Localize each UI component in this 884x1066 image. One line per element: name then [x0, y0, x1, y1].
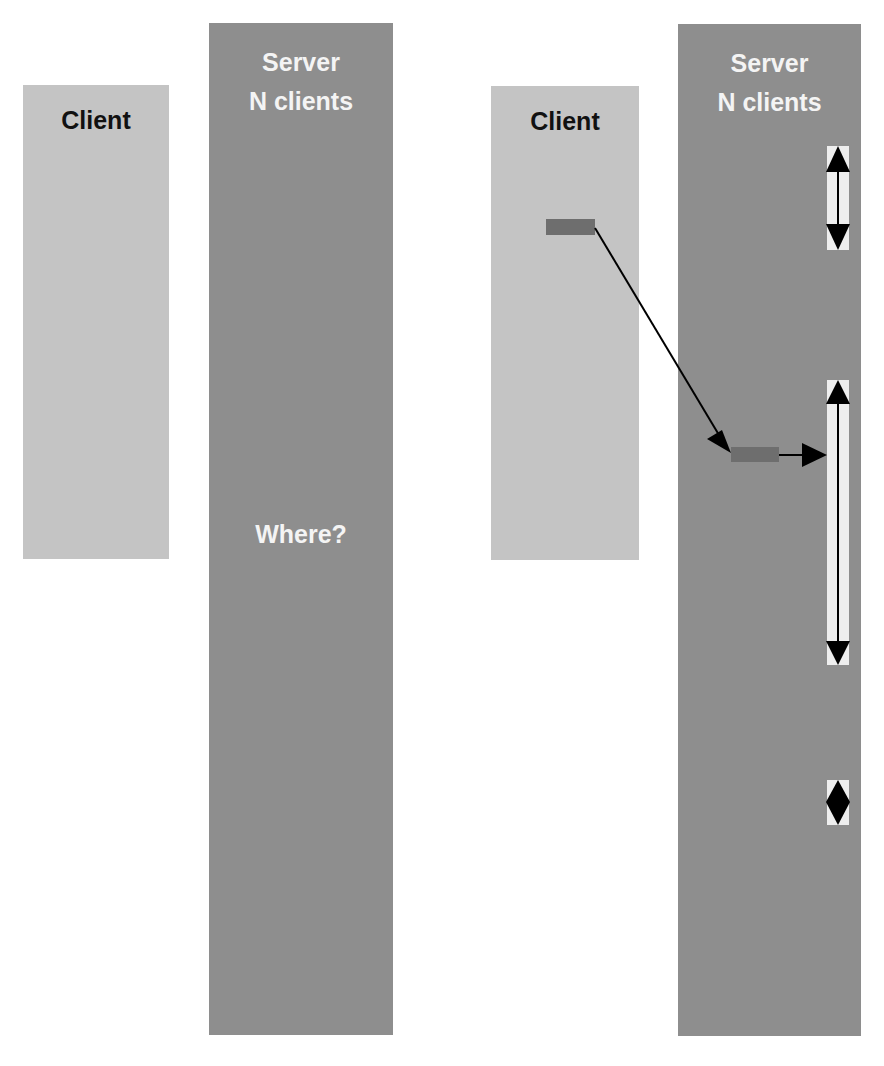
where-question-label: Where? — [209, 519, 393, 550]
right-client-label: Client — [491, 106, 639, 137]
left-server-label-line1: Server — [209, 47, 393, 78]
left-server-column: Server N clients Where? — [209, 23, 393, 1035]
left-client-column: Client — [23, 85, 169, 559]
right-server-label-line1: Server — [678, 48, 861, 79]
right-server-column: Server N clients — [678, 24, 861, 1036]
left-client-label: Client — [23, 105, 169, 136]
right-server-label-line2: N clients — [678, 87, 861, 118]
server-placement-block — [731, 447, 779, 462]
client-request-block — [546, 219, 595, 235]
right-client-column: Client — [491, 86, 639, 560]
left-server-label-line2: N clients — [209, 86, 393, 117]
